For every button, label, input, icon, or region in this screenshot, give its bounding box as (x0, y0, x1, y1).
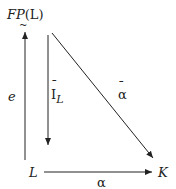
bar: ¯ (118, 80, 125, 93)
node-k: K (158, 166, 168, 179)
node-l: L (29, 166, 38, 179)
label-i-l: ¯IL (51, 88, 63, 105)
label-alpha-bar: ¯α (118, 88, 127, 101)
label-alpha: α (97, 176, 106, 189)
label-e: e (8, 90, 16, 103)
label-sub-l: L (56, 93, 63, 106)
bar: ¯ (51, 79, 58, 92)
node-fp-arg: (L) (25, 7, 44, 22)
arrow-alpha-bar (52, 33, 153, 158)
tilde-decoration: ~ (19, 19, 27, 30)
